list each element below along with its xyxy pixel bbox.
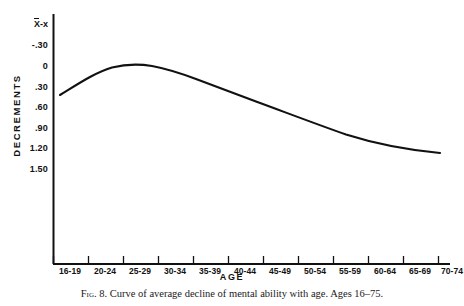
decline-curve (60, 65, 440, 153)
x-axis-title: AGE (0, 272, 464, 282)
figure-caption: Fig. 8. Curve of average decline of ment… (0, 288, 464, 299)
y-tick-label-0: -.30 (14, 40, 48, 50)
chart-plot-area (0, 0, 464, 282)
y-tick-label-6: 1.50 (14, 164, 48, 174)
figure-caption-text: Curve of average decline of mental abili… (110, 288, 384, 299)
figure-number: Fig. 8. (81, 288, 107, 299)
figure-container: X-x -.30 0 .30 .60 .90 1.20 1.50 DECREME… (0, 0, 464, 306)
x-axis-ticks (54, 256, 439, 264)
y-axis-unit-header: X-x (14, 19, 48, 29)
y-axis-title: DECREMENTS (11, 66, 22, 166)
